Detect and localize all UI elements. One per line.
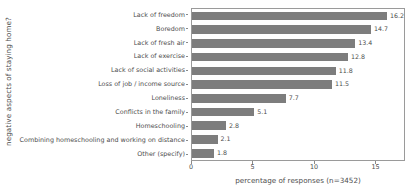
- y-axis-tick-2: Lack of fresh air: [16, 36, 188, 50]
- y-axis-tick-label: Conflicts in the family: [115, 109, 185, 115]
- y-axis-tick-5: Loss of job / income source: [16, 78, 188, 92]
- bar: [192, 149, 214, 158]
- y-axis-tick-mark: [186, 56, 189, 57]
- y-axis-tick-6: Loneliness: [16, 91, 188, 105]
- bar-row: 16.2: [192, 9, 404, 23]
- bar-value-label: 2.1: [221, 136, 231, 142]
- y-axis-tick-mark: [186, 42, 189, 43]
- y-axis-tick-label: Combining homeschooling and working on d…: [20, 137, 185, 143]
- y-axis-tick-mark: [186, 28, 189, 29]
- bar: [192, 67, 336, 76]
- bar-value-label: 11.5: [335, 81, 349, 87]
- y-axis-tick-9: Combining homeschooling and working on d…: [16, 133, 188, 147]
- bar: [192, 121, 226, 130]
- y-axis-tick-mark: [186, 70, 189, 71]
- bar-value-label: 7.7: [289, 95, 299, 101]
- bar-row: 11.5: [192, 78, 404, 92]
- bar: [192, 135, 218, 144]
- y-axis-tick-label: Lack of exercise: [134, 53, 185, 59]
- bar-row: 2.8: [192, 119, 404, 133]
- y-axis-tick-mark: [186, 126, 189, 127]
- y-axis-tick-4: Lack of social activities: [16, 64, 188, 78]
- bar-row: 2.1: [192, 133, 404, 147]
- y-axis-tick-label: Loss of job / income source: [98, 81, 185, 87]
- y-axis-tick-label: Homeschooling: [136, 123, 185, 129]
- bar: [192, 94, 286, 103]
- bar-series: 16.214.713.412.811.811.57.75.12.82.11.8: [192, 9, 404, 160]
- bar: [192, 12, 387, 21]
- y-axis-tick-label: Lack of freedom: [133, 12, 185, 18]
- bar-row: 1.8: [192, 146, 404, 160]
- bar-value-label: 12.8: [351, 54, 365, 60]
- bar-row: 12.8: [192, 50, 404, 64]
- bar: [192, 108, 254, 117]
- y-axis-tick-8: Homeschooling: [16, 119, 188, 133]
- y-axis-tick-0: Lack of freedom: [16, 8, 188, 22]
- bar-value-label: 14.7: [374, 26, 388, 32]
- y-axis-tick-mark: [186, 112, 189, 113]
- bar-row: 7.7: [192, 91, 404, 105]
- x-axis-ticks: 051015: [191, 161, 405, 173]
- y-axis-tick-3: Lack of exercise: [16, 50, 188, 64]
- y-axis-tick-mark: [186, 98, 189, 99]
- bar-row: 5.1: [192, 105, 404, 119]
- bar-value-label: 16.2: [390, 13, 404, 19]
- x-axis-tick-label: 0: [189, 164, 193, 170]
- bar: [192, 39, 355, 48]
- y-axis-tick-label: Lack of social activities: [111, 67, 185, 73]
- bar-row: 14.7: [192, 23, 404, 37]
- bar-value-label: 2.8: [229, 123, 239, 129]
- x-axis-tick-label: 10: [310, 164, 318, 170]
- y-axis-tick-1: Boredom: [16, 22, 188, 36]
- x-axis-title: percentage of responses (n=3452): [191, 176, 405, 185]
- bar: [192, 25, 371, 34]
- bar-value-label: 11.8: [339, 68, 353, 74]
- bar-row: 13.4: [192, 36, 404, 50]
- bar-value-label: 13.4: [358, 40, 372, 46]
- bar-chart-figure: negative aspects of staying home? Lack o…: [0, 0, 420, 195]
- bar-value-label: 5.1: [257, 109, 267, 115]
- y-axis-tick-10: Other (specify): [16, 147, 188, 161]
- y-axis-tick-label: Loneliness: [151, 95, 185, 101]
- y-axis-tick-mark: [186, 84, 189, 85]
- x-axis-tick-label: 15: [371, 164, 379, 170]
- y-axis-tick-label: Other (specify): [137, 151, 185, 157]
- y-axis-category-labels: Lack of freedomBoredomLack of fresh airL…: [16, 8, 188, 161]
- bar: [192, 53, 348, 62]
- y-axis-tick-7: Conflicts in the family: [16, 105, 188, 119]
- plot-area: 16.214.713.412.811.811.57.75.12.82.11.8: [191, 8, 405, 161]
- y-axis-tick-label: Boredom: [156, 26, 185, 32]
- bar-value-label: 1.8: [217, 150, 227, 156]
- y-axis-tick-mark: [186, 14, 189, 15]
- y-axis-title: negative aspects of staying home?: [4, 17, 13, 146]
- y-axis-tick-label: Lack of fresh air: [134, 40, 185, 46]
- y-axis-title-container: negative aspects of staying home?: [0, 0, 16, 163]
- x-axis-tick-label: 5: [250, 164, 254, 170]
- bar-row: 11.8: [192, 64, 404, 78]
- bar: [192, 80, 332, 89]
- y-axis-tick-mark: [186, 154, 189, 155]
- y-axis-tick-mark: [186, 140, 189, 141]
